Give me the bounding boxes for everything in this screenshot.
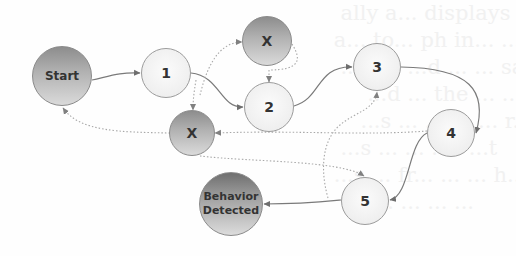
- edge-4-to-xbottom: [215, 131, 427, 133]
- edge-1-to-xbottom: [193, 80, 196, 110]
- edge-xbottom-to-start: [63, 108, 170, 133]
- node-2-label: 2: [264, 99, 274, 115]
- edge-2-to-3: [294, 67, 352, 106]
- node-1-label: 1: [161, 65, 171, 81]
- edge-1-to-2: [191, 73, 243, 107]
- node-5-label: 5: [360, 193, 370, 209]
- node-start: Start: [32, 46, 92, 106]
- edge-1-to-xtop: [200, 42, 242, 95]
- node-behavior-detected: Behavior Detected: [199, 172, 263, 236]
- node-4-label: 4: [446, 125, 456, 141]
- node-x-bottom-label: X: [187, 125, 198, 141]
- node-4: 4: [427, 109, 475, 157]
- edge-5-to-detected: [264, 200, 341, 204]
- node-x-top: X: [242, 16, 292, 66]
- node-1: 1: [141, 48, 191, 98]
- edge-4-to-5: [390, 133, 427, 200]
- node-detected-label-line1: Behavior: [203, 190, 258, 204]
- node-5: 5: [341, 177, 389, 225]
- node-x-top-label: X: [262, 33, 273, 49]
- node-2: 2: [244, 82, 294, 132]
- node-3: 3: [353, 43, 401, 91]
- node-x-bottom: X: [169, 110, 215, 156]
- node-3-label: 3: [372, 59, 382, 75]
- edge-start-to-1: [92, 73, 140, 80]
- node-start-label: Start: [45, 69, 79, 83]
- node-detected-label-line2: Detected: [203, 204, 259, 218]
